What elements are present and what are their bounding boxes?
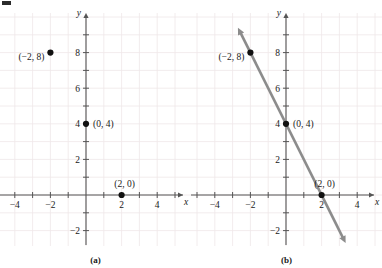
x-axis-label: x (374, 197, 380, 207)
y-tick-label: 4 (275, 119, 280, 129)
data-point-label: (2, 0) (314, 179, 335, 190)
axis-ticks (197, 35, 357, 231)
y-tick-label: 2 (75, 155, 80, 165)
data-point-label: (−2, 8) (218, 52, 244, 63)
data-point (47, 50, 53, 56)
x-tick-label: 4 (355, 200, 360, 210)
data-point-label: (0, 4) (293, 119, 314, 130)
y-tick-label: 2 (275, 155, 280, 165)
grid-lines (0, 13, 191, 246)
y-tick-label: 8 (75, 48, 80, 58)
panel-b: −4−224−22468xy(−2, 8)(0, 4)(2, 0) (b) (191, 0, 382, 268)
coordinate-plane-a: −4−224−22468xy(−2, 8)(0, 4)(2, 0) (0, 0, 191, 250)
x-axis-label: x (183, 197, 189, 207)
x-tick-label: −2 (45, 200, 55, 210)
y-tick-label: −2 (70, 226, 80, 236)
data-point-label: (0, 4) (93, 119, 114, 130)
panel-b-caption: (b) (191, 255, 382, 265)
data-point (83, 121, 89, 127)
y-axis-arrowhead-icon (283, 13, 288, 18)
y-axis-label: y (276, 8, 282, 18)
x-tick-label: 2 (119, 200, 124, 210)
x-axis-arrowhead-icon (178, 192, 183, 197)
axis-ticks (15, 35, 175, 231)
two-panel-coordinate-figure: −4−224−22468xy(−2, 8)(0, 4)(2, 0) (a) −4… (0, 0, 382, 268)
data-point-label: (−2, 8) (18, 52, 44, 63)
axes (191, 13, 374, 245)
panel-a-caption: (a) (0, 255, 191, 265)
y-tick-label: −2 (270, 226, 280, 236)
y-axis-arrowhead-icon (83, 13, 88, 18)
y-tick-label: 6 (75, 84, 80, 94)
data-point (283, 121, 289, 127)
x-tick-label: −4 (210, 200, 220, 210)
x-tick-label: 4 (155, 200, 160, 210)
y-tick-label: 4 (75, 119, 80, 129)
y-tick-label: 6 (275, 84, 280, 94)
x-axis-arrowhead-icon (369, 192, 374, 197)
panel-a: −4−224−22468xy(−2, 8)(0, 4)(2, 0) (a) (0, 0, 191, 268)
data-point (319, 192, 325, 198)
coordinate-plane-b: −4−224−22468xy(−2, 8)(0, 4)(2, 0) (191, 0, 382, 250)
data-point-label: (2, 0) (114, 179, 135, 190)
x-tick-label: −2 (245, 200, 255, 210)
data-point (119, 192, 125, 198)
graph-line (240, 33, 343, 238)
y-tick-label: 8 (275, 48, 280, 58)
data-point (247, 50, 253, 56)
y-axis-label: y (76, 8, 82, 18)
axes (0, 13, 183, 245)
x-tick-label: −4 (10, 200, 20, 210)
